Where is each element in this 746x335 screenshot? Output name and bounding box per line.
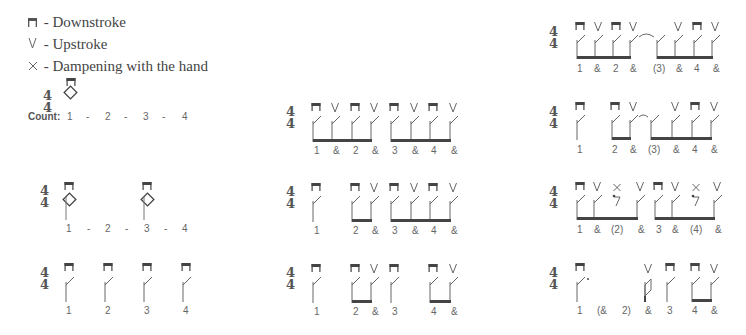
count: 3 [143,111,149,122]
count: & [451,225,458,236]
count: 4 [694,63,700,74]
pattern-L3: 1 2 3 4 [40,263,191,316]
count: & [630,63,637,74]
count: 1 [577,63,583,74]
count: - [124,111,127,122]
count: 3 [392,225,398,236]
count: 2 [105,111,111,122]
count: 3 [392,145,398,156]
eighth-rest-icon [614,197,620,206]
count: 3 [144,223,150,234]
notation-canvas: 4 4 Count: 1 - 2 - 3 - 4 1 - 2 - 3 - 4 [0,0,746,335]
count: 1 [314,225,320,236]
count: - [87,223,90,234]
count: & [412,225,419,236]
count: 1 [66,223,72,234]
count: & [645,305,652,316]
count: 3 [667,305,673,316]
count: 1 [577,224,583,235]
pattern-R1: 1 & 2 & (3) & 4 & [549,22,720,74]
count: & [372,306,379,317]
count: - [86,111,89,122]
pattern-R2: 1 2 & (3) & 4 & [549,102,719,155]
count: & [676,63,683,74]
count: 1 [577,144,583,155]
count: 2 [612,144,618,155]
pattern-R4: 1 (& 2) & 3 4 & [549,263,719,316]
count: & [333,145,340,156]
count: 4 [182,111,188,122]
count: 2 [105,223,111,234]
count-label: Count: [28,111,60,122]
count: & [630,144,637,155]
count: 2 [613,63,619,74]
pattern-M3: 1 2 & 3 4 & [286,264,458,317]
pattern-M1: 1 & 2 & 3 & 4 & [286,103,458,156]
count: 4 [692,144,698,155]
time-signature [40,183,49,210]
eighth-rest-icon [693,197,699,206]
count: 1 [66,305,72,316]
count: 2 [353,306,359,317]
count: (3) [648,144,660,155]
count: - [164,223,167,234]
count: & [711,305,718,316]
count: 3 [144,305,150,316]
count: & [372,225,379,236]
count: 1 [577,305,583,316]
count: & [672,224,679,235]
count: 4 [692,305,698,316]
dampening-icon [614,184,621,191]
count: & [715,224,722,235]
count: & [713,63,720,74]
count: 2 [353,225,359,236]
downstroke-icon [143,182,152,190]
count: & [711,144,718,155]
count: 3 [392,306,398,317]
count: 2) [622,305,631,316]
pattern-L2: 1 - 2 - 3 - 4 [40,182,188,234]
pattern-L1: Count: 1 - 2 - 3 - 4 [28,78,188,122]
count: 4 [431,225,437,236]
tie-icon [639,115,648,117]
count: & [451,306,458,317]
count: (4) [690,224,702,235]
time-signature [40,265,49,292]
dot-icon [587,278,589,280]
count: & [594,63,601,74]
count: & [673,144,680,155]
whole-note-icon [64,86,77,99]
count: 2 [105,305,111,316]
count: & [372,145,379,156]
count: (2) [611,224,623,235]
dampening-icon [693,184,700,191]
downstroke-icon [65,182,74,190]
count: (& [597,305,607,316]
count: & [594,224,601,235]
count: 4 [431,306,437,317]
count: & [412,145,419,156]
downstroke-icon [67,78,76,86]
pattern-R3: 1 & (2) & 3 & (4) & [549,182,722,235]
count: - [162,111,165,122]
count: (3) [653,63,665,74]
count: 4 [183,305,189,316]
count: 1 [314,145,320,156]
count: 2 [353,145,359,156]
count: & [451,145,458,156]
count: 4 [182,223,188,234]
count: 1 [314,306,320,317]
count: & [638,224,645,235]
count: - [125,223,128,234]
tie-icon [639,34,654,37]
pattern-M2: 1 2 & 3 & 4 & [286,183,458,236]
count: 4 [431,145,437,156]
count: 1 [67,111,73,122]
count: 3 [656,224,662,235]
